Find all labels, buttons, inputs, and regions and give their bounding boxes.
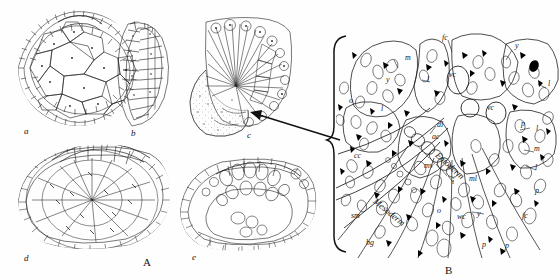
anatomy-label-m: m <box>405 54 411 62</box>
anatomy-label-i: i <box>452 178 454 186</box>
anatomy-label-fc: fc <box>442 34 448 42</box>
anatomy-label-l: l <box>535 164 537 172</box>
subfigure-letter-d: d <box>24 253 29 263</box>
anatomy-label-o: o <box>437 207 441 215</box>
anatomy-label-l: l <box>536 125 538 133</box>
anatomy-label-sm: sm <box>351 212 360 220</box>
anatomy-label-y: y <box>386 76 390 84</box>
anatomy-label-dl: dl <box>437 121 443 129</box>
anatomy-label-p: p <box>521 120 525 128</box>
panel-b-brace <box>327 36 346 252</box>
panel-letter-b: B <box>445 264 452 276</box>
anatomy-label-p: p <box>535 187 539 195</box>
anatomy-label-y: y <box>515 42 519 50</box>
anatomy-label-cc: cc <box>354 152 361 160</box>
anatomy-label-wc: wc <box>457 213 466 221</box>
panel-letter-a: A <box>143 256 151 268</box>
anatomy-label-vc: vc <box>487 104 494 112</box>
subfigure-letter-b: b <box>131 128 136 138</box>
subfigure-letter-c: c <box>247 130 251 140</box>
figure-plate: mylfcylvcvcoldlacccmlplmvmlipfcwcysmbgpp… <box>0 0 560 278</box>
anatomy-label-m: m <box>534 145 540 153</box>
magnification-arrow <box>250 110 340 140</box>
anatomy-label-bg: bg <box>366 239 374 247</box>
subfigure-e-drawing <box>180 157 316 254</box>
subfigure-a-drawing <box>18 10 140 127</box>
subfigure-d-drawing <box>18 143 171 252</box>
anatomy-label-l: l <box>381 105 383 113</box>
anatomy-label-mv: mv <box>424 162 433 170</box>
anatomy-label-y: y <box>477 210 481 218</box>
anatomy-label-ac: ac <box>432 133 440 141</box>
anatomy-label-ml: ml <box>469 175 477 183</box>
anatomy-label-p: p <box>482 241 486 249</box>
subfigure-c-drawing <box>190 18 292 137</box>
anatomy-label-o: o <box>349 97 353 105</box>
subfigure-letter-a: a <box>24 126 29 136</box>
panel-b-drawing <box>334 34 558 258</box>
anatomy-label-vc: vc <box>449 71 456 79</box>
anatomy-label-fc: fc <box>522 212 528 220</box>
anatomy-label-p: p <box>505 242 509 250</box>
anatomy-label-l: l <box>548 80 550 88</box>
subfigure-letter-e: e <box>192 252 196 262</box>
anatomy-label-l: l <box>427 76 429 84</box>
illustration-canvas <box>0 0 560 278</box>
